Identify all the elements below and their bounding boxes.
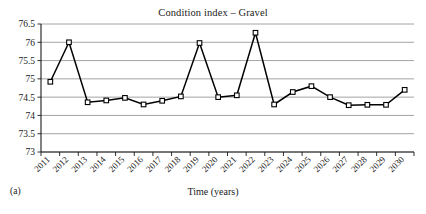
- x-tick-label: 2021: [218, 154, 238, 174]
- x-tick-label: 2017: [144, 154, 164, 174]
- data-point-marker: [216, 95, 221, 100]
- data-point-marker: [290, 90, 295, 95]
- data-point-marker: [141, 102, 146, 107]
- y-tick-label: 74: [26, 111, 36, 121]
- data-point-marker: [85, 100, 90, 105]
- y-tick-label: 74.5: [18, 93, 35, 103]
- data-point-marker: [346, 103, 351, 108]
- x-tick-label: 2014: [88, 154, 108, 174]
- x-tick-label: 2020: [200, 154, 220, 174]
- x-tick-label: 2024: [274, 154, 294, 174]
- data-point-marker: [179, 94, 184, 99]
- data-point-marker: [384, 103, 389, 108]
- x-tick-label: 2025: [293, 154, 313, 174]
- y-tick-label: 76.5: [18, 19, 35, 29]
- y-tick-label: 75: [26, 74, 36, 84]
- x-tick-label: 2023: [256, 154, 276, 174]
- data-point-marker: [365, 103, 370, 108]
- x-tick-label: 2015: [107, 154, 127, 174]
- data-point-marker: [402, 88, 407, 93]
- panel-label: (a): [10, 186, 21, 196]
- y-tick-label: 75.5: [18, 56, 35, 66]
- plot-area: 7373.57474.57575.57676.52011201220132014…: [0, 0, 426, 214]
- data-point-marker: [160, 99, 165, 104]
- figure-panel: Condition index – Gravel 7373.57474.5757…: [0, 0, 426, 214]
- data-point-marker: [123, 96, 128, 101]
- data-point-marker: [253, 30, 258, 35]
- data-point-marker: [197, 41, 202, 46]
- x-tick-label: 2022: [237, 154, 257, 174]
- data-point-marker: [272, 102, 277, 107]
- data-point-marker: [309, 84, 314, 89]
- data-point-marker: [48, 79, 53, 84]
- data-point-marker: [67, 40, 72, 45]
- x-tick-label: 2013: [69, 154, 89, 174]
- x-tick-label: 2028: [349, 154, 369, 174]
- x-tick-label: 2018: [162, 154, 182, 174]
- y-tick-label: 73.5: [18, 129, 35, 139]
- x-axis-title: Time (years): [0, 186, 426, 197]
- y-tick-label: 76: [26, 38, 36, 48]
- line-chart-svg: 7373.57474.57575.57676.52011201220132014…: [0, 0, 426, 214]
- data-point-marker: [328, 95, 333, 100]
- x-tick-label: 2027: [330, 154, 350, 174]
- x-tick-label: 2019: [181, 154, 201, 174]
- y-tick-label: 73: [26, 147, 36, 157]
- x-tick-label: 2012: [51, 154, 71, 174]
- x-tick-label: 2030: [386, 154, 406, 174]
- data-point-marker: [104, 98, 109, 103]
- data-line: [50, 33, 404, 105]
- data-point-marker: [235, 93, 240, 98]
- x-tick-label: 2016: [125, 154, 145, 174]
- x-tick-label: 2026: [312, 154, 332, 174]
- x-tick-label: 2029: [368, 154, 388, 174]
- x-tick-label: 2011: [32, 154, 52, 174]
